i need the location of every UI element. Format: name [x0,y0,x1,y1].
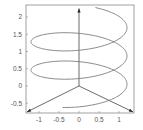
x-axis-arrow [27,86,79,112]
x-tick-label: -1 [36,116,42,123]
y-tick-label: 1.5 [13,31,22,38]
x-tick-label: 0.5 [94,116,103,123]
y-tick-labels: 21.510.50-0.5 [11,13,23,106]
x-tick-labels: -1-0.500.51 [36,116,121,123]
arrowhead-icon [129,109,133,112]
helix-chart: 21.510.50-0.5 -1-0.500.51 [0,0,143,130]
y-tick-label: 1 [18,48,22,55]
plot-frame [26,5,134,113]
y-tick-label: -0.5 [11,100,23,107]
x-tick-label: -0.5 [53,116,65,123]
x-tick-label: 1 [117,116,121,123]
x-tick-label: 0 [77,116,81,123]
arrowhead-icon [77,8,80,12]
y-tick-label: 0 [18,82,22,89]
arrowhead-icon [27,109,31,112]
y-tick-label: 2 [18,13,22,20]
y-tick-label: 0.5 [13,65,22,72]
